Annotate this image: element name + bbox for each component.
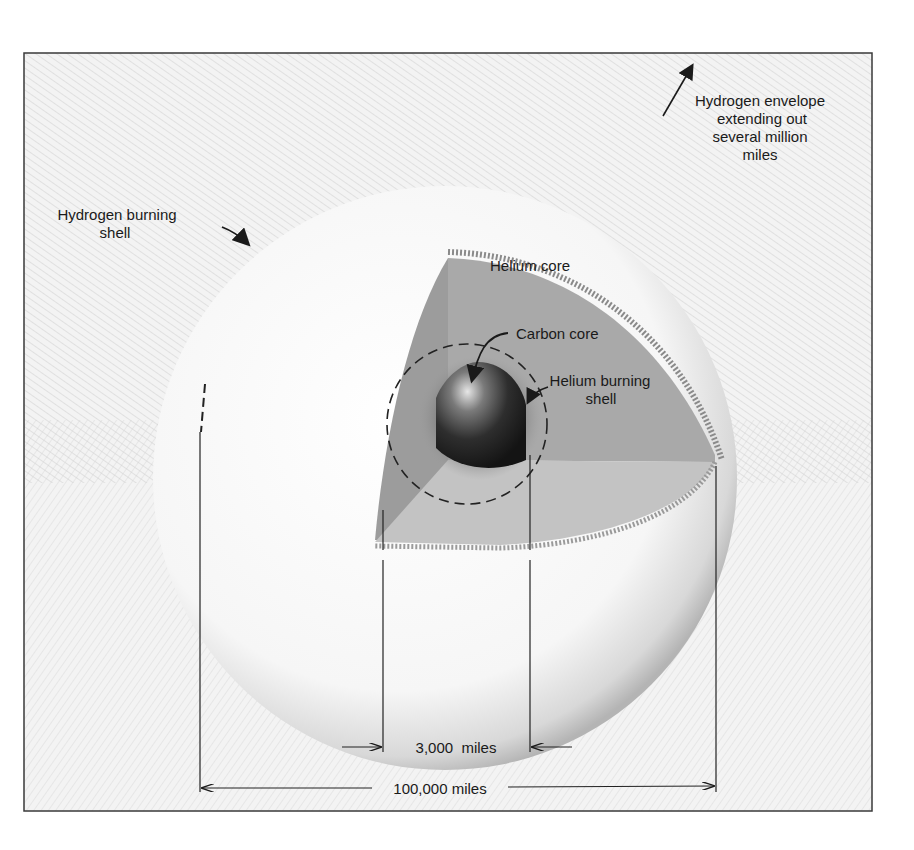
outer-dimension-label: 100,000 miles xyxy=(393,780,486,797)
svg-text:miles: miles xyxy=(742,146,777,163)
svg-text:Helium burning: Helium burning xyxy=(550,372,651,389)
diagram-canvas: 3,000 miles 100,000 miles Hydrogen envel… xyxy=(0,0,914,850)
helium-core-label: Helium core xyxy=(490,257,570,274)
svg-text:shell: shell xyxy=(586,390,617,407)
inner-dimension-label: 3,000 miles xyxy=(416,739,497,756)
svg-text:extending out: extending out xyxy=(717,110,808,127)
svg-text:Hydrogen envelope: Hydrogen envelope xyxy=(695,92,825,109)
carbon-core-label: Carbon core xyxy=(516,325,599,342)
svg-text:several million: several million xyxy=(712,128,807,145)
svg-text:shell: shell xyxy=(100,224,131,241)
svg-text:Hydrogen burning: Hydrogen burning xyxy=(57,206,176,223)
